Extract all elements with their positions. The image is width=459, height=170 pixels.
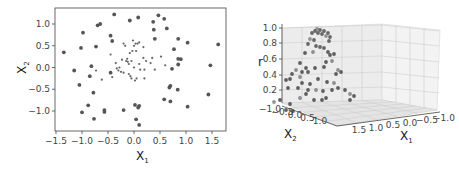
data-point-3d — [314, 44, 318, 48]
data-point — [86, 103, 90, 107]
x1-tick-label: 1.0 — [369, 123, 384, 133]
data-point — [101, 79, 103, 81]
data-point — [130, 77, 132, 79]
data-point — [142, 46, 144, 48]
data-point — [137, 123, 141, 127]
y-tick-label: 0.0 — [36, 63, 51, 73]
data-point — [136, 77, 138, 79]
data-point — [172, 47, 176, 51]
data-point-3d — [327, 39, 331, 43]
data-point-3d — [288, 77, 292, 81]
data-point-3d — [334, 72, 338, 76]
x-tick-label: −0.5 — [97, 136, 119, 146]
data-point-3d — [286, 86, 290, 90]
data-point — [151, 20, 155, 24]
data-point — [121, 59, 123, 61]
data-point-3d — [352, 94, 356, 98]
data-point-3d — [320, 98, 324, 102]
figure: −1.5−1.0−0.50.00.51.01.5 1.00.50.0−0.5−1… — [0, 0, 459, 170]
data-point — [80, 110, 84, 114]
x1-tick-label: 0.5 — [386, 120, 400, 130]
data-point-3d — [312, 98, 316, 102]
data-point — [116, 67, 118, 69]
data-point-3d — [314, 88, 318, 92]
data-point — [162, 97, 166, 101]
data-point — [123, 43, 125, 45]
data-point-3d — [304, 92, 308, 96]
data-point-3d — [311, 50, 315, 54]
data-point — [78, 83, 82, 87]
data-point-3d — [304, 66, 308, 70]
data-point — [128, 73, 130, 75]
scatter-plot-3d: 0.20.40.60.81.0 −1.0−0.50.00.51.0 1.51.0… — [258, 23, 455, 145]
data-point — [135, 50, 137, 52]
data-point-3d — [300, 70, 304, 74]
data-point — [122, 108, 126, 112]
data-point — [72, 69, 76, 73]
data-point — [92, 91, 96, 95]
data-point-3d — [298, 61, 302, 65]
data-point — [135, 43, 137, 45]
data-point-3d — [316, 77, 320, 81]
data-point — [138, 63, 140, 65]
data-point — [157, 13, 161, 17]
data-point — [131, 50, 133, 52]
data-point-3d — [348, 98, 352, 102]
data-point — [151, 57, 153, 59]
data-point — [169, 100, 173, 104]
data-point-3d — [312, 38, 316, 42]
x-tick-label: 1.5 — [205, 136, 219, 146]
data-point-3d — [306, 42, 310, 46]
data-point-3d — [278, 98, 282, 102]
data-point — [207, 93, 211, 97]
x1-tick-label: −1.0 — [433, 113, 455, 123]
data-point — [169, 84, 173, 88]
x1-axis-label-3d: X1 — [400, 129, 413, 145]
data-point — [103, 110, 107, 114]
y-tick-label: 1.0 — [36, 19, 51, 29]
data-point — [176, 88, 180, 92]
data-point-3d — [294, 68, 298, 72]
data-point-3d — [298, 96, 302, 100]
y-axis-label: X2 — [15, 61, 31, 74]
scatter-plot-2d: −1.5−1.0−0.50.00.51.01.5 1.00.50.0−0.5−1… — [15, 8, 226, 165]
data-point — [179, 57, 183, 61]
data-point-3d — [322, 29, 326, 33]
data-point-3d — [288, 102, 292, 106]
data-point — [95, 69, 97, 71]
data-point-3d — [313, 66, 317, 70]
data-point — [118, 66, 120, 68]
x-tick-label: 0.0 — [127, 136, 142, 146]
data-point-3d — [343, 88, 347, 92]
data-point — [88, 74, 92, 78]
y-tick-label: −1.0 — [28, 106, 50, 116]
r-tick-label: 0.2 — [263, 85, 277, 95]
data-point — [133, 66, 135, 68]
data-point — [109, 71, 113, 75]
data-point — [176, 63, 180, 67]
r-tick-label: 0.4 — [263, 70, 278, 80]
data-point-3d — [308, 37, 312, 41]
r-axis-ticks: 0.20.40.60.81.0 — [263, 23, 282, 95]
data-point — [62, 50, 66, 54]
data-point-3d — [328, 53, 332, 57]
data-point — [186, 105, 190, 109]
data-point-3d — [290, 72, 294, 76]
data-point-3d — [306, 88, 310, 92]
x2-tick-label: 1.0 — [313, 116, 328, 126]
data-point — [160, 56, 162, 58]
data-point — [110, 39, 114, 43]
data-point-3d — [308, 82, 312, 86]
data-point — [134, 117, 138, 121]
r-tick-label: 1.0 — [263, 23, 278, 33]
data-point — [92, 117, 96, 121]
data-point — [170, 67, 174, 71]
data-point — [120, 71, 122, 73]
data-point — [186, 41, 190, 45]
data-point — [90, 64, 94, 68]
data-point — [111, 76, 113, 78]
data-point — [112, 13, 116, 17]
data-point — [98, 22, 102, 26]
y-axis-ticks: 1.00.50.0−0.5−1.0 — [28, 19, 55, 116]
data-point — [133, 45, 135, 47]
